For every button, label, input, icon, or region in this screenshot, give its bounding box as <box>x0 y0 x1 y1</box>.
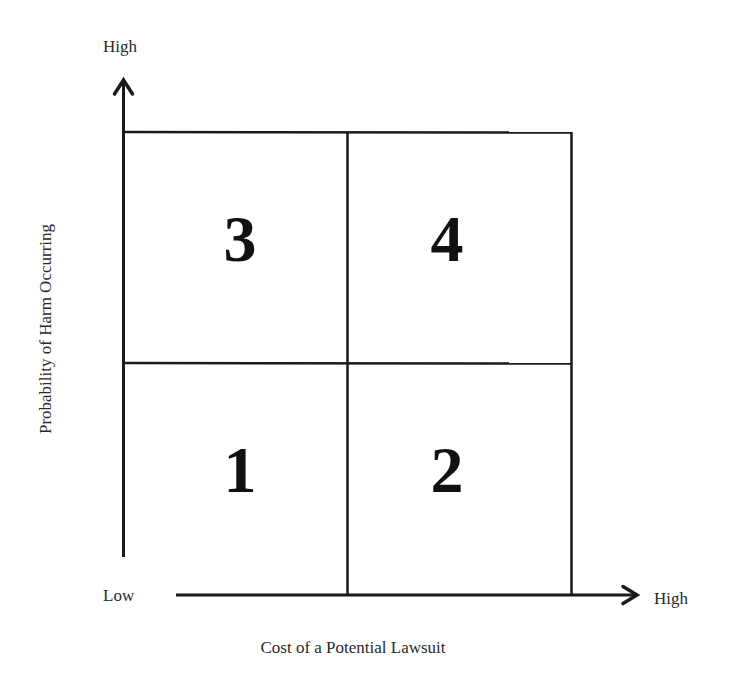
quadrant-bottom-left-number: 1 <box>200 437 280 503</box>
y-axis-arrow <box>115 80 133 557</box>
quadrant-top-right-number: 4 <box>407 206 487 272</box>
quadrant-top-left-number: 3 <box>200 206 280 272</box>
quadrant-grid <box>124 132 573 595</box>
y-axis-title: Probability of Harm Occurring <box>36 224 56 434</box>
x-axis-high-label: High <box>654 589 688 609</box>
x-axis-arrow <box>176 587 637 604</box>
y-axis-high-label: High <box>103 37 137 57</box>
quadrant-bottom-right-number: 2 <box>407 437 487 503</box>
x-axis-title-wrapper: Cost of a Potential Lawsuit <box>0 638 734 658</box>
risk-matrix-diagram: High Low High Probability of Harm Occurr… <box>0 0 734 683</box>
matrix-lines <box>0 0 734 683</box>
y-axis-low-label: Low <box>103 586 134 606</box>
x-axis-title: Cost of a Potential Lawsuit <box>260 638 445 657</box>
